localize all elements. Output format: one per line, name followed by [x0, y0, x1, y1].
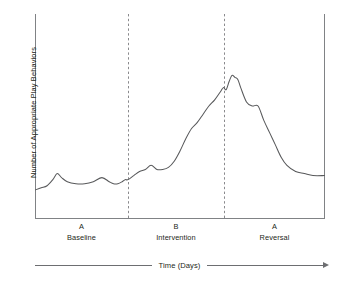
- chart-figure: Number of Appropriate Play Behaviors A B…: [0, 0, 342, 283]
- time-axis-rule-left: [35, 265, 152, 266]
- y-axis-label: Number of Appropriate Play Behaviors: [29, 18, 38, 208]
- time-axis: Time (Days): [35, 258, 329, 272]
- arrow-right-icon: [323, 262, 329, 268]
- x-axis-label: Time (Days): [152, 260, 208, 269]
- time-axis-rule-right: [207, 265, 324, 266]
- phase-name-intervention: Intervention: [128, 233, 224, 244]
- phase-letter-baseline: A: [35, 222, 128, 233]
- phase-label-baseline: A Baseline: [35, 222, 128, 243]
- phase-label-intervention: B Intervention: [128, 222, 224, 243]
- data-line: [36, 75, 325, 190]
- phase-label-reversal: A Reversal: [224, 222, 325, 243]
- phase-name-baseline: Baseline: [35, 233, 128, 244]
- phase-letter-intervention: B: [128, 222, 224, 233]
- phase-name-reversal: Reversal: [224, 233, 325, 244]
- phase-letter-reversal: A: [224, 222, 325, 233]
